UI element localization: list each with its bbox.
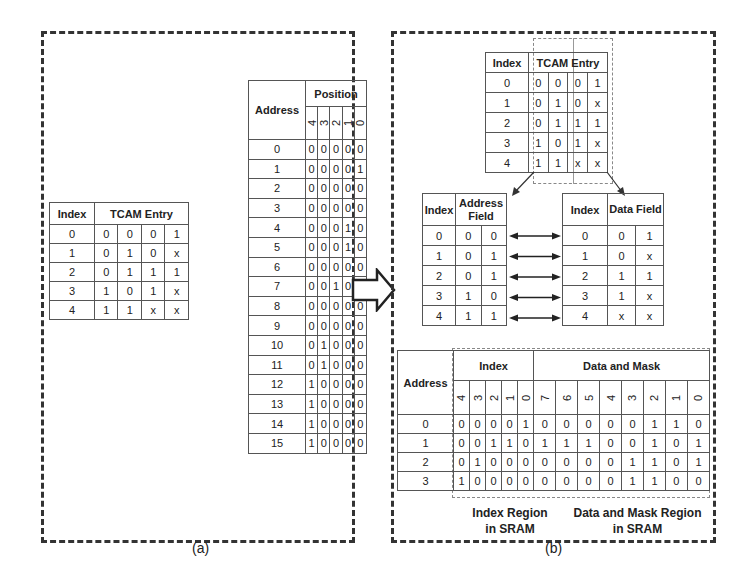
data-position-label: 2 bbox=[644, 381, 666, 415]
data-position-label: 4 bbox=[600, 381, 622, 415]
bit-cell: 0 bbox=[342, 433, 354, 453]
bit-cell: 0 bbox=[318, 375, 330, 395]
bit-cell: 0 bbox=[118, 282, 141, 301]
data-region-label: Data and Mask Region in SRAM bbox=[565, 505, 710, 537]
bit-cell: 1 bbox=[306, 394, 318, 414]
address-cell: 10 bbox=[249, 335, 306, 355]
sram-table: Address Index Data and Mask 432107654321… bbox=[397, 350, 710, 491]
data-position-label-label: 7 bbox=[539, 394, 551, 400]
data-bit-cell: 1 bbox=[644, 415, 666, 434]
data-bit-cell: 0 bbox=[600, 415, 622, 434]
address-cell: 15 bbox=[249, 433, 306, 453]
data-bit-cell: 0 bbox=[665, 472, 687, 491]
bit-cell: 0 bbox=[318, 277, 330, 297]
bit-cell: x bbox=[635, 306, 663, 326]
index-position-label-label: 0 bbox=[520, 394, 532, 400]
index-cell: 0 bbox=[50, 225, 95, 244]
address-cell: 14 bbox=[249, 414, 306, 434]
table-row: 201 bbox=[423, 266, 507, 286]
bit-cell: 0 bbox=[318, 179, 330, 199]
address-cell: 9 bbox=[249, 316, 306, 336]
index-cell: 2 bbox=[50, 263, 95, 282]
position-label-label: 1 bbox=[342, 120, 354, 126]
bit-cell: 1 bbox=[141, 263, 164, 282]
address-cell: 2 bbox=[249, 179, 306, 199]
position-label-label: 0 bbox=[354, 120, 366, 126]
bit-cell: 0 bbox=[95, 263, 118, 282]
bit-cell: 0 bbox=[330, 394, 342, 414]
bit-cell: 1 bbox=[354, 159, 366, 179]
data-bit-cell: 0 bbox=[665, 434, 687, 453]
bit-cell: 0 bbox=[318, 237, 330, 257]
bit-cell: 0 bbox=[568, 73, 588, 93]
bit-cell: 0 bbox=[318, 257, 330, 277]
bit-cell: 1 bbox=[481, 306, 507, 326]
bit-cell: 0 bbox=[456, 266, 482, 286]
bit-cell: 1 bbox=[165, 263, 189, 282]
bit-cell: 1 bbox=[118, 263, 141, 282]
data-bit-cell: 0 bbox=[578, 453, 600, 472]
bit-cell: 0 bbox=[342, 316, 354, 336]
table-row: 000000 bbox=[249, 140, 367, 160]
index-cell: 1 bbox=[50, 244, 95, 263]
index-cell: 2 bbox=[486, 113, 529, 133]
bit-cell: x bbox=[635, 286, 663, 306]
data-bit-cell: 0 bbox=[556, 453, 578, 472]
index-position-label: 1 bbox=[502, 381, 518, 415]
bit-cell: 1 bbox=[588, 113, 608, 133]
position-label: 2 bbox=[330, 107, 342, 140]
bit-cell: 1 bbox=[118, 244, 141, 263]
index-cell: 3 bbox=[423, 286, 456, 306]
address-cell: 0 bbox=[398, 415, 454, 434]
bit-cell: 0 bbox=[342, 179, 354, 199]
bit-cell: x bbox=[141, 301, 164, 320]
table-row: 20100000001101 bbox=[398, 453, 710, 472]
bit-cell: 0 bbox=[354, 433, 366, 453]
table-row: 4xx bbox=[563, 306, 664, 326]
data-bit-cell: 0 bbox=[534, 472, 556, 491]
address-cell: 4 bbox=[249, 218, 306, 238]
data-bit-cell: 0 bbox=[534, 415, 556, 434]
data-bit-cell: 1 bbox=[534, 434, 556, 453]
position-label: 4 bbox=[306, 107, 318, 140]
bit-cell: 0 bbox=[354, 198, 366, 218]
bit-cell: 0 bbox=[481, 286, 507, 306]
index-cell: 4 bbox=[563, 306, 608, 326]
bit-cell: 0 bbox=[529, 93, 549, 113]
data-position-label-label: 3 bbox=[627, 394, 639, 400]
table-row: 31x bbox=[563, 286, 664, 306]
bit-cell: 0 bbox=[354, 375, 366, 395]
tcam-entry-header: TCAM Entry bbox=[95, 203, 189, 225]
bit-cell: 1 bbox=[568, 113, 588, 133]
bit-cell: 0 bbox=[118, 225, 141, 244]
bit-cell: 1 bbox=[306, 375, 318, 395]
bit-cell: 0 bbox=[481, 226, 507, 246]
index-bit-cell: 1 bbox=[470, 453, 486, 472]
data-position-label-label: 6 bbox=[561, 394, 573, 400]
bit-cell: 0 bbox=[330, 218, 342, 238]
index-bit-cell: 0 bbox=[502, 453, 518, 472]
index-bit-cell: 0 bbox=[518, 434, 534, 453]
table-row: 00000100000110 bbox=[398, 415, 710, 434]
tcam-entry-header: TCAM Entry bbox=[529, 53, 608, 73]
bit-cell: 0 bbox=[548, 133, 568, 153]
index-cell: 3 bbox=[50, 282, 95, 301]
position-label-label: 3 bbox=[318, 120, 330, 126]
data-bit-cell: 0 bbox=[687, 472, 709, 491]
table-row: 1101000 bbox=[249, 355, 367, 375]
table-row: 1001000 bbox=[249, 335, 367, 355]
index-position-label: 0 bbox=[518, 381, 534, 415]
bit-cell: 0 bbox=[456, 226, 482, 246]
index-header: Index bbox=[423, 194, 456, 226]
table-row: 3101x bbox=[486, 133, 608, 153]
index-cell: 4 bbox=[50, 301, 95, 320]
table-row: 10x bbox=[563, 246, 664, 266]
address-cell: 5 bbox=[249, 237, 306, 257]
bit-cell: x bbox=[165, 301, 189, 320]
data-position-label: 3 bbox=[622, 381, 644, 415]
table-row: 300000 bbox=[249, 198, 367, 218]
index-header: Index bbox=[454, 351, 534, 381]
index-cell: 3 bbox=[563, 286, 608, 306]
bit-cell: 0 bbox=[306, 355, 318, 375]
address-cell: 2 bbox=[398, 453, 454, 472]
